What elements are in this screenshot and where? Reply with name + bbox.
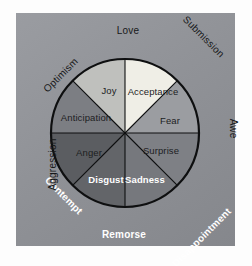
wheel-svg: [0, 0, 252, 266]
emotion-wheel-figure: JoyAcceptanceFearSurpriseSadnessDisgustA…: [0, 0, 252, 266]
wheel-container: JoyAcceptanceFearSurpriseSadnessDisgustA…: [0, 0, 252, 266]
